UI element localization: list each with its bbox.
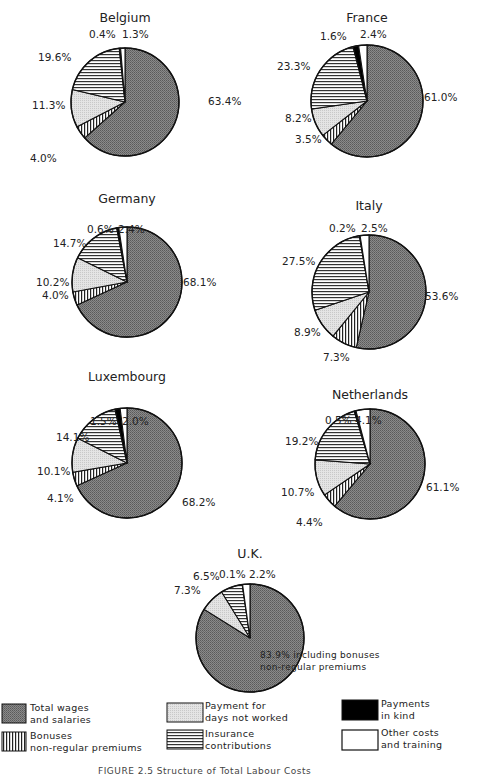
pie-italy: [312, 235, 426, 349]
slice-label: 7.3%: [174, 584, 201, 596]
slice-label: 0.4%: [89, 28, 116, 40]
slice-label: 83.9% including bonuses: [260, 650, 380, 660]
slice-label: 68.2%: [182, 496, 215, 508]
legend-label: Payment for: [205, 700, 266, 711]
slice-label: 7.3%: [323, 351, 350, 363]
legend-label: and salaries: [30, 714, 91, 725]
pie-title: France: [346, 10, 388, 25]
pie-belgium: [71, 48, 179, 156]
pie-title: Germany: [98, 191, 156, 206]
pie-uk: [196, 584, 304, 692]
kind-swatch-icon: [342, 700, 378, 720]
slice-label: 2.4%: [118, 223, 145, 235]
wages-swatch-icon: [2, 704, 26, 723]
legend-label: in kind: [381, 710, 415, 721]
pie-title: U.K.: [237, 546, 262, 561]
legend-label: days not worked: [205, 712, 288, 723]
pie-title: Luxembourg: [88, 369, 166, 384]
legend-item-other: Other costs and training: [342, 727, 442, 750]
legend-item-days: Payment for days not worked: [167, 700, 288, 723]
days-swatch-icon: [167, 703, 203, 722]
slice-label: 14.1%: [56, 431, 89, 443]
slice-label: 19.2%: [285, 435, 318, 447]
figure-caption: FIGURE 2.5 Structure of Total Labour Cos…: [98, 766, 311, 775]
slice-label: 1.5%: [90, 415, 117, 427]
slice-label: 0.6%: [87, 223, 114, 235]
legend-label: non-regular premiums: [30, 742, 142, 753]
slice-label: 61.1%: [426, 481, 459, 493]
slice-label: 23.3%: [277, 60, 310, 72]
slice-label: 3.5%: [295, 133, 322, 145]
slice-label: 10.7%: [281, 486, 314, 498]
pie-title: Netherlands: [332, 387, 408, 402]
pie-germany: [72, 227, 182, 337]
slice-label: 53.6%: [425, 290, 458, 302]
slice-label: 2.4%: [360, 28, 387, 40]
legend-item-ins: Insurance contributions: [167, 728, 271, 751]
slice-label: 4.1%: [47, 492, 74, 504]
slice-label: 10.1%: [37, 465, 70, 477]
insurance-swatch-icon: [167, 730, 203, 749]
pie-france: [311, 45, 423, 157]
slice-label: 14.7%: [53, 237, 86, 249]
legend-label: contributions: [205, 740, 271, 751]
slice-label: 19.6%: [38, 51, 71, 63]
slice-label: 11.3%: [32, 99, 65, 111]
pie-title: Belgium: [99, 10, 150, 25]
slice-label: 27.5%: [282, 255, 315, 267]
legend-label: Insurance: [205, 728, 254, 739]
slice-label: 8.2%: [285, 112, 312, 124]
slice-label: 8.9%: [294, 326, 321, 338]
slice-label: 10.2%: [36, 276, 69, 288]
slice-label: 61.0%: [424, 91, 457, 103]
slice-label: 2.2%: [249, 568, 276, 580]
pie-title: Italy: [355, 198, 383, 213]
pie-chart-grid: Belgium63.4%4.0%11.3%19.6%0.4%1.3%France…: [0, 0, 479, 775]
slice-label: 2.0%: [122, 415, 149, 427]
legend-label: Bonuses: [30, 730, 72, 741]
slice-label: 0.2%: [329, 222, 356, 234]
slice-label: 6.5%: [193, 570, 220, 582]
slice-label: 68.1%: [183, 276, 216, 288]
slice-label: 4.4%: [296, 516, 323, 528]
slice-label: 0.1%: [219, 568, 246, 580]
bonus-swatch-icon: [2, 732, 26, 751]
slice-label: 1.3%: [122, 28, 149, 40]
other-swatch-icon: [342, 730, 378, 750]
legend-item-wages: Total wages and salaries: [2, 702, 91, 725]
legend-label: Payments: [381, 698, 430, 709]
slice-label: 2.5%: [361, 222, 388, 234]
slice-label: 1.6%: [320, 30, 347, 42]
legend-item-kind: Payments in kind: [342, 698, 430, 721]
legend: Total wages and salaries Bonuses non-reg…: [2, 698, 442, 753]
slice-label: 4.0%: [42, 289, 69, 301]
slice-label: 4.1%: [355, 414, 382, 426]
slice-label: 0.5%: [325, 414, 352, 426]
slice-label: 4.0%: [30, 152, 57, 164]
legend-label: and training: [381, 739, 442, 750]
slice-label: 63.4%: [208, 95, 241, 107]
legend-label: Other costs: [381, 727, 439, 738]
slice-label: non-regular premiums: [260, 662, 366, 672]
legend-label: Total wages: [29, 702, 89, 713]
legend-item-bonus: Bonuses non-regular premiums: [2, 730, 142, 753]
